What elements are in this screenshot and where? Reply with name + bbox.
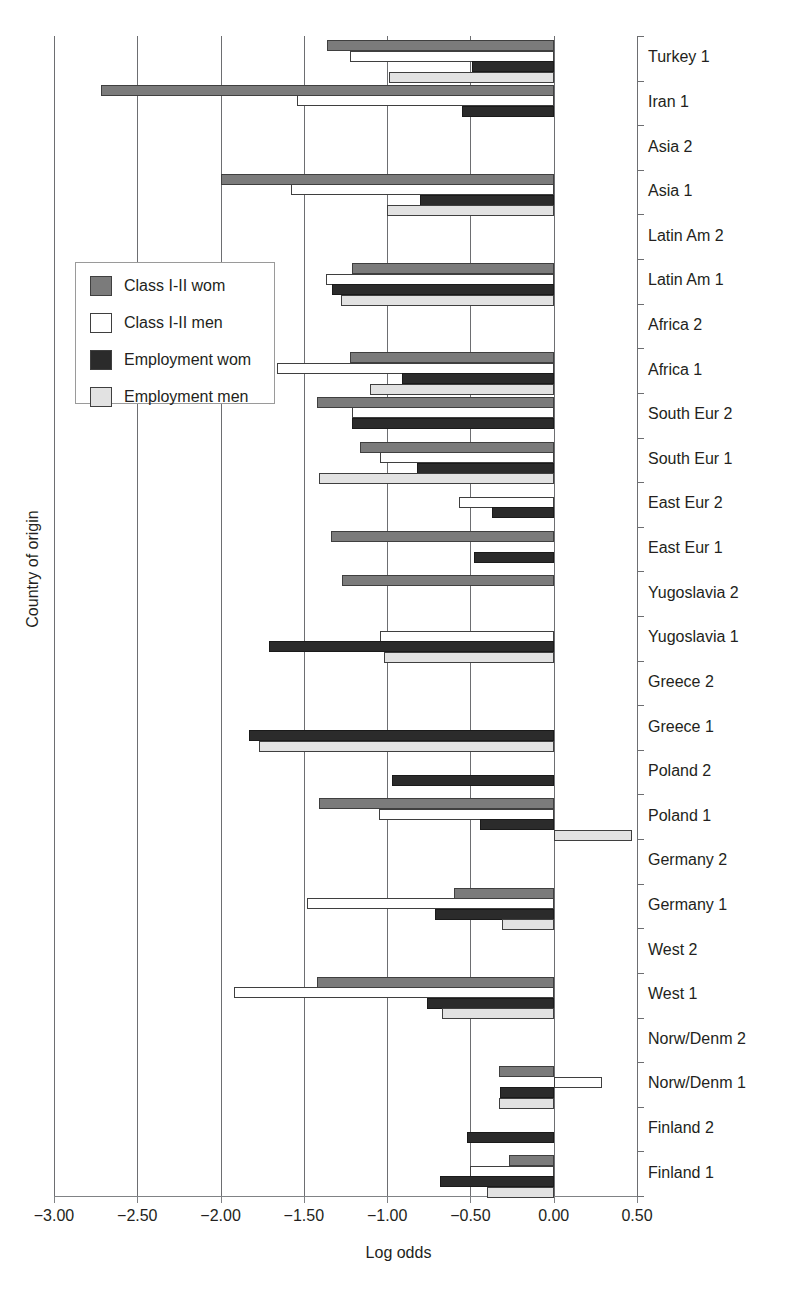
category-label: Greece 2 <box>648 673 714 691</box>
legend-label: Class I-II wom <box>124 277 225 295</box>
bar <box>472 61 554 72</box>
bar <box>492 507 554 518</box>
category-tick <box>637 527 644 528</box>
bar <box>440 1176 553 1187</box>
category-tick <box>637 750 644 751</box>
category-tick <box>637 884 644 885</box>
swatch-class-men-icon <box>90 313 112 333</box>
category-tick <box>637 1018 644 1019</box>
category-label: Norw/Denm 2 <box>648 1030 746 1048</box>
bar <box>387 205 554 216</box>
legend-item-class-wom: Class I-II wom <box>90 271 274 300</box>
category-label: Finland 1 <box>648 1164 714 1182</box>
category-tick <box>637 1062 644 1063</box>
bar <box>326 274 554 285</box>
bar <box>402 373 554 384</box>
bar <box>487 1187 554 1198</box>
category-tick <box>637 661 644 662</box>
category-label: Germany 1 <box>648 896 727 914</box>
category-label: East Eur 2 <box>648 494 723 512</box>
category-tick <box>637 304 644 305</box>
bar <box>427 998 554 1009</box>
category-label: West 2 <box>648 941 698 959</box>
bar <box>331 531 554 542</box>
category-label: West 1 <box>648 985 698 1003</box>
bar <box>360 442 553 453</box>
category-tick <box>637 81 644 82</box>
bar <box>462 106 554 117</box>
category-tick <box>637 482 644 483</box>
chart-figure: −3.00−2.50−2.00−1.50−1.00−0.500.000.50 T… <box>0 0 797 1306</box>
legend-item-class-men: Class I-II men <box>90 308 274 337</box>
category-label: Africa 2 <box>648 316 702 334</box>
bar <box>269 641 554 652</box>
legend: Class I-II wom Class I-II men Employment… <box>75 262 275 404</box>
bar <box>291 184 554 195</box>
bar <box>307 898 554 909</box>
category-tick <box>637 170 644 171</box>
bar <box>502 919 554 930</box>
category-tick <box>637 438 644 439</box>
category-tick <box>637 393 644 394</box>
bar <box>327 40 554 51</box>
bar <box>442 1008 554 1019</box>
bar <box>350 352 553 363</box>
category-label: Latin Am 1 <box>648 271 724 289</box>
bar <box>435 909 553 920</box>
category-tick <box>637 1196 644 1197</box>
bar <box>297 95 554 106</box>
category-label: East Eur 1 <box>648 539 723 557</box>
category-label: Finland 2 <box>648 1119 714 1137</box>
bar <box>249 730 554 741</box>
category-label: Yugoslavia 1 <box>648 628 739 646</box>
legend-label: Employment men <box>124 388 249 406</box>
swatch-class-wom-icon <box>90 276 112 296</box>
legend-label: Employment wom <box>124 351 251 369</box>
bar <box>352 407 554 418</box>
category-tick <box>637 705 644 706</box>
category-label: Norw/Denm 1 <box>648 1074 746 1092</box>
category-label: Greece 1 <box>648 718 714 736</box>
category-tick <box>637 259 644 260</box>
x-tick-label: 0.50 <box>592 1207 682 1225</box>
bar <box>500 1087 553 1098</box>
legend-item-emp-wom: Employment wom <box>90 345 274 374</box>
bar <box>509 1155 554 1166</box>
bar <box>379 809 554 820</box>
x-axis-title: Log odds <box>0 1244 797 1262</box>
category-label: Germany 2 <box>648 851 727 869</box>
category-tick <box>637 214 644 215</box>
bar <box>370 384 553 395</box>
category-tick <box>637 616 644 617</box>
bar <box>389 72 554 83</box>
category-label: Iran 1 <box>648 93 689 111</box>
category-tick <box>637 1151 644 1152</box>
legend-label: Class I-II men <box>124 314 223 332</box>
category-tick <box>637 973 644 974</box>
category-tick <box>637 125 644 126</box>
category-tick <box>637 928 644 929</box>
category-label: Poland 2 <box>648 762 711 780</box>
x-tick <box>387 1196 388 1203</box>
category-label: Africa 1 <box>648 361 702 379</box>
x-tick-label: −2.50 <box>92 1207 182 1225</box>
category-tick <box>637 36 644 37</box>
bar <box>350 51 553 62</box>
x-tick <box>54 1196 55 1203</box>
bar <box>341 295 554 306</box>
bar <box>384 652 554 663</box>
x-tick-label: −0.50 <box>425 1207 515 1225</box>
category-label: Turkey 1 <box>648 48 710 66</box>
bar <box>417 463 554 474</box>
category-label: South Eur 2 <box>648 405 733 423</box>
bar <box>420 195 553 206</box>
bar <box>352 263 554 274</box>
bar <box>470 1166 553 1177</box>
bar <box>101 85 554 96</box>
x-tick <box>304 1196 305 1203</box>
category-label: Asia 2 <box>648 138 692 156</box>
y-axis-title: Country of origin <box>24 459 42 679</box>
bar <box>554 1077 602 1088</box>
category-label: Latin Am 2 <box>648 227 724 245</box>
bar <box>480 819 553 830</box>
